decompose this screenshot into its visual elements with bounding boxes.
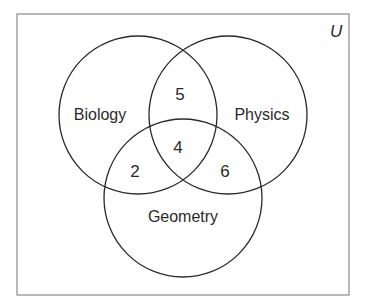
region-biology-geometry: 2 <box>130 162 139 181</box>
biology-label: Biology <box>74 106 126 123</box>
universe-rectangle <box>17 14 349 295</box>
region-biology-physics: 5 <box>175 85 184 104</box>
physics-label: Physics <box>234 106 289 123</box>
region-all-three: 4 <box>173 138 182 157</box>
universe-label: U <box>330 22 343 41</box>
region-physics-geometry: 6 <box>220 162 229 181</box>
geometry-label: Geometry <box>148 208 218 225</box>
venn-diagram: U Biology Physics Geometry 5 4 2 6 <box>0 0 369 301</box>
geometry-circle <box>104 119 262 277</box>
